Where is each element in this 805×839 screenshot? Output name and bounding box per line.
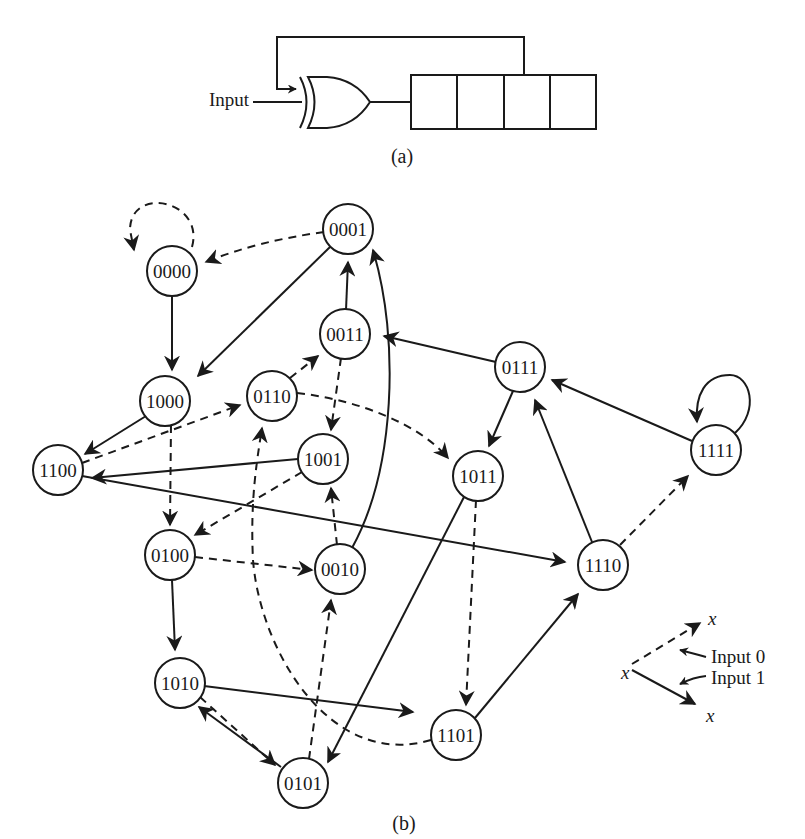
state-label: 0011 bbox=[326, 324, 363, 345]
edge-1001-1100 bbox=[92, 459, 298, 478]
edge-1000-0100 bbox=[170, 425, 171, 525]
edge-0110-0011 bbox=[290, 356, 318, 378]
legend-source-node: x bbox=[620, 662, 630, 683]
state-node-0010: 0010 bbox=[315, 544, 365, 594]
edge-1110-1111 bbox=[620, 476, 688, 545]
edge-0101-0010 bbox=[309, 600, 331, 759]
state-node-0001: 0001 bbox=[323, 204, 373, 254]
state-label: 1111 bbox=[698, 440, 734, 461]
edge-0010-0001 bbox=[352, 250, 390, 548]
edge-0001-1000 bbox=[198, 247, 330, 376]
state-transition-graph: 0000000100110111100001101001101111111100… bbox=[33, 203, 765, 835]
shift-register bbox=[411, 75, 596, 129]
edge-0111-1011 bbox=[489, 391, 513, 446]
state-node-0000: 0000 bbox=[147, 246, 197, 296]
state-label: 0001 bbox=[329, 219, 367, 240]
legend-input0-arrow bbox=[632, 623, 700, 664]
edge-0101-1010 bbox=[199, 707, 281, 767]
state-node-0110: 0110 bbox=[247, 371, 297, 421]
legend: x x x Input 0 Input 1 bbox=[620, 608, 765, 726]
legend-pointer-input1 bbox=[680, 676, 706, 684]
legend-input1-label: Input 1 bbox=[711, 667, 765, 688]
state-node-1101: 1101 bbox=[431, 710, 481, 760]
feedback-wire bbox=[277, 37, 524, 89]
state-diagram-canvas: Input (a) bbox=[0, 0, 805, 839]
state-label: 1011 bbox=[459, 466, 496, 487]
state-label: 1000 bbox=[146, 391, 184, 412]
edge-1000-1100 bbox=[85, 416, 146, 454]
state-node-0100: 0100 bbox=[145, 530, 195, 580]
state-label: 0111 bbox=[502, 357, 539, 378]
xor-gate-icon bbox=[300, 77, 370, 128]
state-label: 0110 bbox=[253, 386, 290, 407]
state-node-0101: 0101 bbox=[278, 758, 328, 808]
state-node-1111: 1111 bbox=[691, 425, 741, 475]
state-label: 0100 bbox=[151, 545, 189, 566]
shift-register-circuit: Input (a) bbox=[209, 37, 596, 168]
state-node-1001: 1001 bbox=[298, 434, 348, 484]
edge-1011-1101 bbox=[466, 500, 476, 705]
edge-1111-0111 bbox=[552, 380, 692, 441]
edge-0001-0000 bbox=[206, 232, 324, 262]
legend-pointer-input0 bbox=[680, 650, 706, 657]
state-node-1100: 1100 bbox=[33, 445, 83, 495]
state-node-0111: 0111 bbox=[495, 342, 545, 392]
state-label: 1101 bbox=[437, 725, 474, 746]
edge-0010-1001 bbox=[331, 488, 337, 545]
edge-1010-1101 bbox=[204, 686, 413, 712]
state-label: 0000 bbox=[153, 261, 191, 282]
edge-0011-1001 bbox=[331, 358, 341, 430]
state-label: 1001 bbox=[304, 449, 342, 470]
caption-b: (b) bbox=[392, 812, 415, 835]
input-label: Input bbox=[209, 89, 250, 110]
legend-input1-arrow bbox=[632, 670, 695, 704]
state-label: 0010 bbox=[321, 559, 359, 580]
edge-1001-0100 bbox=[195, 472, 302, 535]
edge-1111-1111 bbox=[697, 375, 750, 433]
state-label: 1010 bbox=[161, 673, 199, 694]
caption-a: (a) bbox=[391, 145, 413, 168]
edge-1101-1110 bbox=[475, 594, 578, 718]
state-label: 1110 bbox=[585, 555, 622, 576]
state-label: 1100 bbox=[39, 460, 76, 481]
edge-0011-0001 bbox=[346, 262, 348, 310]
legend-input0-label: Input 0 bbox=[711, 646, 765, 667]
legend-target-node-0: x bbox=[707, 608, 717, 629]
state-node-1011: 1011 bbox=[453, 451, 503, 501]
edge-1110-0111 bbox=[535, 400, 592, 542]
legend-target-node-1: x bbox=[705, 705, 715, 726]
edge-0000-0000 bbox=[130, 203, 194, 250]
state-node-0011: 0011 bbox=[320, 309, 370, 359]
state-label: 0101 bbox=[284, 773, 322, 794]
edge-0111-0011 bbox=[384, 336, 496, 362]
state-nodes: 0000000100110111100001101001101111111100… bbox=[33, 204, 741, 808]
state-node-1000: 1000 bbox=[140, 376, 190, 426]
edge-0100-1010 bbox=[172, 580, 175, 650]
state-node-1010: 1010 bbox=[155, 658, 205, 708]
state-node-1110: 1110 bbox=[578, 540, 628, 590]
